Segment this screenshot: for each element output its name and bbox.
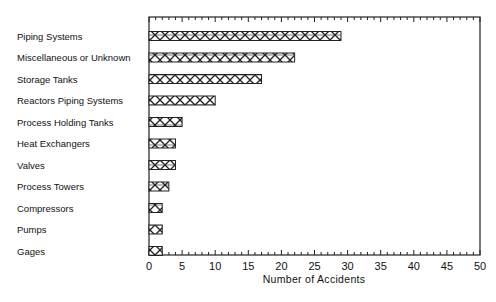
bar [149,96,215,105]
category-label: Valves [17,160,45,171]
category-label: Storage Tanks [17,74,78,85]
category-label: Piping Systems [17,31,83,42]
x-tick-label: 30 [341,260,353,272]
x-tick-label: 0 [146,260,152,272]
category-label: Pumps [17,224,47,235]
x-tick-label: 25 [308,260,320,272]
bar [149,247,162,256]
x-tick-label: 45 [441,260,453,272]
bars [149,32,341,256]
x-tick-label: 15 [242,260,254,272]
category-label: Reactors Piping Systems [17,95,123,106]
bar-chart: Piping SystemsMiscellaneous or UnknownSt… [0,0,496,302]
bar [149,118,182,127]
x-tick-label: 5 [179,260,185,272]
bar [149,182,169,191]
bar [149,53,295,62]
x-tick-label: 50 [474,260,486,272]
x-tick-label: 20 [275,260,287,272]
bar [149,75,262,84]
x-tick-label: 10 [209,260,221,272]
category-label: Process Towers [17,181,84,192]
category-label: Compressors [17,203,74,214]
x-tick-labels: 05101520253035404550 [146,260,486,272]
category-label: Miscellaneous or Unknown [17,52,131,63]
category-label: Heat Exchangers [17,138,90,149]
bar [149,225,162,234]
x-tick-label: 40 [408,260,420,272]
category-label: Process Holding Tanks [17,117,114,128]
x-axis-title: Number of Accidents [263,273,366,285]
category-labels: Piping SystemsMiscellaneous or UnknownSt… [17,31,131,257]
category-label: Gages [17,246,45,257]
bar [149,161,175,170]
bar [149,204,162,213]
x-tick-label: 35 [375,260,387,272]
bar [149,32,341,41]
bar [149,139,175,148]
